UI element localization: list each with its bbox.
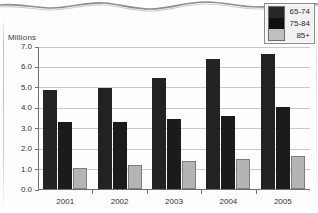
scanned-chart-page: Millions 0.01.02.03.04.05.06.07.02001200… bbox=[0, 0, 318, 213]
x-tick-label-2005: 2005 bbox=[274, 197, 292, 206]
y-tick-mark bbox=[35, 128, 39, 129]
bar-2005-85+ bbox=[291, 156, 305, 189]
bar-2001-75-84 bbox=[58, 122, 72, 189]
bar-2001-65-74 bbox=[43, 90, 57, 189]
legend-label-85-plus: 85+ bbox=[290, 30, 310, 41]
legend-label-stack: 65-74 75-84 85+ bbox=[290, 6, 310, 41]
y-tick-mark bbox=[35, 190, 39, 191]
y-tick-mark bbox=[35, 67, 39, 68]
legend-label-75-84: 75-84 bbox=[290, 18, 310, 29]
bar-2002-75-84 bbox=[113, 122, 127, 189]
y-tick-mark bbox=[35, 149, 39, 150]
y-axis-label: Millions bbox=[8, 33, 36, 42]
x-tick-mark bbox=[92, 190, 93, 194]
x-tick-label-2003: 2003 bbox=[165, 197, 183, 206]
legend-swatch-75-84 bbox=[269, 18, 284, 29]
legend-label-65-74: 65-74 bbox=[290, 6, 310, 17]
bar-2002-85+ bbox=[128, 165, 142, 190]
bar-2004-75-84 bbox=[221, 116, 235, 189]
bar-2003-85+ bbox=[182, 161, 196, 189]
bar-2001-85+ bbox=[73, 168, 87, 189]
x-tick-mark bbox=[147, 190, 148, 194]
plot-area: 0.01.02.03.04.05.06.07.02001200220032004… bbox=[38, 47, 310, 190]
y-tick-mark bbox=[35, 87, 39, 88]
y-tick-mark bbox=[35, 108, 39, 109]
y-tick-mark bbox=[35, 47, 39, 48]
bar-2003-75-84 bbox=[167, 119, 181, 189]
y-tick-label: 4.0 bbox=[0, 103, 32, 112]
x-tick-mark bbox=[201, 190, 202, 194]
y-tick-label: 2.0 bbox=[0, 144, 32, 153]
y-tick-mark bbox=[35, 169, 39, 170]
legend-swatch-85-plus bbox=[269, 29, 284, 40]
bar-2004-85+ bbox=[236, 159, 250, 189]
chart-legend: 65-74 75-84 85+ bbox=[264, 3, 315, 44]
x-tick-label-2001: 2001 bbox=[56, 197, 74, 206]
y-tick-label: 3.0 bbox=[0, 124, 32, 133]
x-tick-label-2004: 2004 bbox=[219, 197, 237, 206]
gridline bbox=[38, 47, 310, 48]
x-tick-mark bbox=[256, 190, 257, 194]
bar-2005-75-84 bbox=[276, 107, 290, 189]
legend-swatch-stack bbox=[268, 6, 285, 41]
y-tick-label: 5.0 bbox=[0, 83, 32, 92]
bar-2005-65-74 bbox=[261, 54, 275, 189]
scan-artifact-right bbox=[316, 20, 317, 210]
y-tick-label: 6.0 bbox=[0, 62, 32, 71]
x-axis-line bbox=[38, 189, 310, 190]
y-tick-label: 1.0 bbox=[0, 165, 32, 174]
y-tick-label: 7.0 bbox=[0, 42, 32, 51]
bar-2002-65-74 bbox=[98, 88, 112, 189]
bar-2004-65-74 bbox=[206, 59, 220, 189]
x-tick-label-2002: 2002 bbox=[111, 197, 129, 206]
legend-swatch-65-74 bbox=[269, 7, 284, 18]
y-tick-label: 0.0 bbox=[0, 185, 32, 194]
bar-2003-65-74 bbox=[152, 78, 166, 189]
